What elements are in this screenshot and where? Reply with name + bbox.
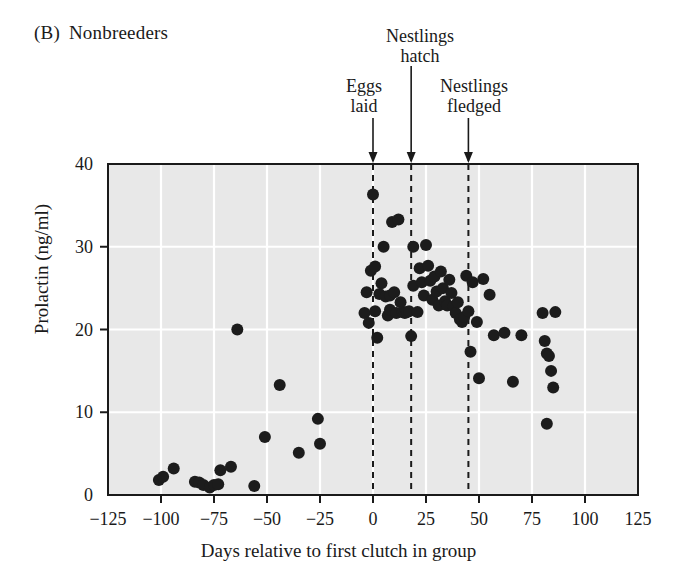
- svg-text:100: 100: [572, 509, 599, 529]
- svg-text:−100: −100: [142, 509, 179, 529]
- figure-panel-b: (B)Nonbreeders Nestlings hatch Eggs laid…: [0, 0, 677, 581]
- svg-text:0: 0: [84, 485, 93, 505]
- svg-text:−50: −50: [253, 509, 281, 529]
- x-tick-labels: −125−100−75−50−250255075100125: [89, 509, 651, 529]
- svg-text:25: 25: [417, 509, 435, 529]
- svg-text:20: 20: [75, 320, 93, 340]
- y-tick-labels: 010203040: [75, 154, 93, 505]
- scatter-plot: −125−100−75−50−250255075100125 010203040: [0, 0, 677, 581]
- y-axis-title: Prolactin (ng/ml): [31, 149, 53, 389]
- svg-text:−75: −75: [200, 509, 228, 529]
- svg-text:−25: −25: [306, 509, 334, 529]
- svg-text:−125: −125: [89, 509, 126, 529]
- svg-text:10: 10: [75, 402, 93, 422]
- svg-text:50: 50: [470, 509, 488, 529]
- svg-text:125: 125: [625, 509, 652, 529]
- svg-text:30: 30: [75, 237, 93, 257]
- svg-text:0: 0: [369, 509, 378, 529]
- svg-text:40: 40: [75, 154, 93, 174]
- svg-text:75: 75: [523, 509, 541, 529]
- x-axis-title: Days relative to first clutch in group: [0, 540, 677, 562]
- annotation-arrows: [369, 66, 473, 163]
